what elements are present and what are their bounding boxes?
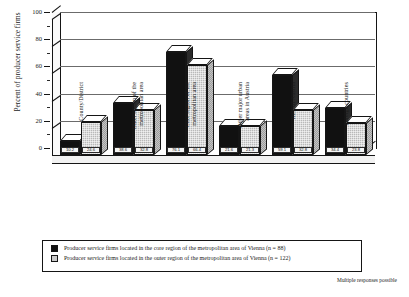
x-category-label-line: metropolitan area (138, 82, 145, 160)
bar: 38.6 (113, 103, 133, 155)
bar-face (166, 52, 186, 155)
bar-group: 34.423.8 (325, 19, 378, 155)
y-tick-mark-0 (44, 148, 50, 149)
x-category-label: Foreign countries (343, 82, 350, 160)
bar-value-label: 21.6 (220, 147, 238, 153)
y-axis: 100806040200 (26, 12, 52, 155)
y-tick-mark-20 (44, 121, 50, 122)
y-tick-mark-40 (44, 94, 50, 95)
x-category-label-line: County/District (78, 82, 85, 160)
x-axis-category-labels: County/DistrictOuter region of themetrop… (52, 160, 375, 238)
legend-item-core-region: Producer service firms located in the co… (51, 245, 361, 252)
bar-face (272, 75, 292, 155)
legend-label-outer-region: Producer service firms located in the ou… (64, 255, 291, 262)
legend-swatch-light (51, 255, 58, 262)
x-category-label-line: Foreign countries (343, 82, 350, 160)
y-tick-label-0: 0 (22, 145, 42, 152)
legend-item-outer-region: Producer service firms located in the ou… (51, 255, 361, 262)
bar: 34.4 (325, 108, 345, 155)
y-tick-label-20: 20 (22, 118, 42, 125)
bar-series-container: 10.224.638.632.876.166.421.621.359.132.8… (52, 12, 375, 162)
legend-swatch-dark (51, 245, 58, 252)
bar-side (366, 117, 373, 155)
y-axis-title: Percent of producer service firms (14, 0, 22, 132)
y-tick-mark-100 (44, 12, 50, 13)
x-category-label-line: Outer region of the (131, 82, 138, 160)
y-minor-tick-50 (47, 80, 50, 81)
y-minor-tick-30 (47, 107, 50, 108)
x-category-label: Outer region of themetropolitan area (131, 82, 145, 160)
bar-side (207, 59, 214, 155)
x-category-label-line: areas in Austria (244, 82, 251, 160)
bar: 10.2 (60, 141, 80, 155)
y-minor-tick-70 (47, 53, 50, 54)
x-category-label-line: metropolitan area (191, 82, 198, 160)
bar-value-label: 34.4 (326, 147, 344, 153)
bar-value-label: 76.1 (167, 147, 185, 153)
bar-value-label: 38.6 (114, 147, 132, 153)
x-category-label-line: Rest of Austria (290, 82, 297, 160)
chart-footnote: Multiple responses possible (337, 277, 397, 283)
y-tick-mark-60 (44, 66, 50, 67)
y-tick-label-40: 40 (22, 91, 42, 98)
y-minor-tick-10 (47, 134, 50, 135)
y-minor-tick-90 (47, 26, 50, 27)
legend-label-core-region: Producer service firms located in the co… (64, 245, 286, 252)
x-category-label: County/District (78, 82, 85, 160)
x-category-label: Other major urbanareas in Austria (237, 82, 251, 160)
bar-group: 59.132.8 (272, 19, 325, 155)
bar: 59.1 (272, 75, 292, 155)
bar-group: 10.224.6 (60, 19, 113, 155)
x-category-label-line: Other major urban (237, 82, 244, 160)
bar-value-label: 59.1 (273, 147, 291, 153)
bar: 21.6 (219, 126, 239, 155)
x-category-label: Rest of Austria (290, 82, 297, 160)
bar: 76.1 (166, 52, 186, 155)
x-category-label-line: Core region of the (184, 82, 191, 160)
bar-side (313, 105, 320, 155)
bar-side (101, 116, 108, 155)
y-tick-label-80: 80 (22, 36, 42, 43)
bar-chart: Percent of producer service firms 100806… (0, 0, 409, 297)
chart-legend: Producer service firms located in the co… (42, 240, 362, 272)
bar-value-label: 10.2 (61, 147, 79, 153)
y-tick-mark-80 (44, 39, 50, 40)
y-tick-label-60: 60 (22, 63, 42, 70)
bar-side (260, 120, 267, 155)
bar-side (154, 105, 161, 155)
x-category-label: Core region of themetropolitan area (184, 82, 198, 160)
y-tick-label-100: 100 (22, 9, 42, 16)
